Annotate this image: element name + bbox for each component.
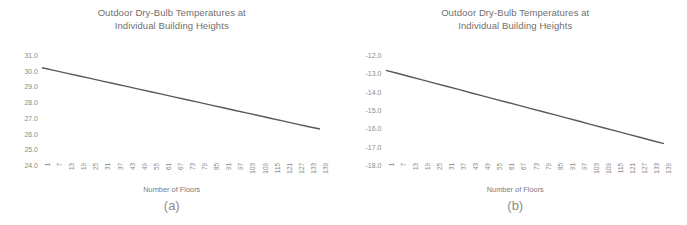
- x-tick-label: 109: [263, 163, 269, 174]
- x-tick-label: 19: [425, 163, 431, 170]
- x-axis-a: 1713192531374349556167737985919710310911…: [42, 163, 332, 185]
- panel-caption-b: (b): [344, 198, 687, 213]
- x-tick-label: 103: [250, 163, 256, 174]
- x-tick-label: 109: [606, 163, 612, 174]
- x-tick-label: 91: [570, 163, 576, 170]
- chart-title-a-line2: Individual Building Heights: [0, 19, 344, 32]
- y-tick-label: -16.0: [366, 125, 382, 132]
- x-tick-label: 103: [594, 163, 600, 174]
- y-tick-label: -17.0: [366, 144, 382, 151]
- x-tick-label: 121: [287, 163, 293, 174]
- y-tick-label: 26.0: [24, 131, 38, 138]
- x-tick-label: 67: [521, 163, 527, 170]
- x-tick-label: 25: [437, 163, 443, 170]
- y-tick-label: 28.0: [24, 99, 38, 106]
- x-tick-label: 127: [299, 163, 305, 174]
- x-tick-label: 7: [57, 163, 63, 167]
- y-tick-label: -14.0: [366, 89, 382, 96]
- chart-title-b-line2: Individual Building Heights: [344, 19, 687, 32]
- x-tick-label: 25: [93, 163, 99, 170]
- x-tick-label: 61: [509, 163, 515, 170]
- y-tick-label: -15.0: [366, 107, 382, 114]
- x-tick-label: 13: [413, 163, 419, 170]
- x-tick-label: 49: [485, 163, 491, 170]
- x-tick-label: 7: [401, 163, 407, 167]
- chart-panel-b: Outdoor Dry-Bulb Temperatures at Individ…: [344, 0, 687, 225]
- x-axis-label-b: Number of Floors: [344, 185, 687, 194]
- data-line-b: [386, 70, 664, 143]
- x-tick-label: 127: [642, 163, 648, 174]
- figure-container: Outdoor Dry-Bulb Temperatures at Individ…: [0, 0, 687, 225]
- x-tick-label: 133: [654, 163, 660, 174]
- x-tick-label: 55: [154, 163, 160, 170]
- chart-title-a-line1: Outdoor Dry-Bulb Temperatures at: [98, 7, 246, 18]
- x-tick-label: 115: [275, 163, 281, 173]
- chart-title-a: Outdoor Dry-Bulb Temperatures at Individ…: [0, 6, 344, 32]
- plot-area-b: [386, 52, 676, 162]
- x-tick-label: 37: [118, 163, 124, 170]
- chart-title-b: Outdoor Dry-Bulb Temperatures at Individ…: [344, 6, 687, 32]
- y-axis-b: -12.0-13.0-14.0-15.0-16.0-17.0-18.0: [348, 46, 382, 168]
- x-tick-label: 73: [190, 163, 196, 170]
- chart-title-b-line1: Outdoor Dry-Bulb Temperatures at: [441, 7, 589, 18]
- y-tick-label: 24.0: [24, 162, 38, 169]
- data-line-a: [42, 68, 320, 129]
- x-tick-label: 67: [178, 163, 184, 170]
- y-tick-label: 27.0: [24, 115, 38, 122]
- x-tick-label: 43: [473, 163, 479, 170]
- chart-panel-a: Outdoor Dry-Bulb Temperatures at Individ…: [0, 0, 344, 225]
- x-tick-label: 85: [214, 163, 220, 170]
- x-tick-label: 55: [497, 163, 503, 170]
- x-tick-label: 73: [534, 163, 540, 170]
- x-tick-label: 139: [323, 163, 329, 174]
- x-tick-label: 43: [130, 163, 136, 170]
- x-tick-label: 139: [666, 163, 672, 174]
- x-tick-label: 91: [226, 163, 232, 170]
- x-axis-label-a: Number of Floors: [0, 185, 344, 194]
- x-tick-label: 49: [142, 163, 148, 170]
- y-tick-label: -13.0: [366, 70, 382, 77]
- plot-area-a: [42, 52, 332, 162]
- y-axis-a: 31.030.029.028.027.026.025.024.0: [4, 46, 38, 168]
- x-tick-label: 1: [45, 163, 51, 167]
- x-axis-b: 1713192531374349556167737985919710310911…: [386, 163, 676, 185]
- x-tick-label: 79: [546, 163, 552, 170]
- panel-caption-a: (a): [0, 198, 344, 213]
- y-tick-label: 25.0: [24, 146, 38, 153]
- x-tick-label: 31: [449, 163, 455, 170]
- x-tick-label: 37: [461, 163, 467, 170]
- x-tick-label: 133: [311, 163, 317, 174]
- x-tick-label: 97: [582, 163, 588, 170]
- x-tick-label: 1: [389, 163, 395, 167]
- y-tick-label: 31.0: [24, 52, 38, 59]
- x-tick-label: 85: [558, 163, 564, 170]
- x-tick-label: 121: [630, 163, 636, 174]
- data-line-b-svg: [386, 52, 676, 162]
- y-tick-label: 30.0: [24, 68, 38, 75]
- x-tick-label: 79: [202, 163, 208, 170]
- x-tick-label: 19: [81, 163, 87, 170]
- x-tick-label: 13: [69, 163, 75, 170]
- y-tick-label: 29.0: [24, 83, 38, 90]
- x-tick-label: 31: [105, 163, 111, 170]
- x-tick-label: 97: [238, 163, 244, 170]
- x-tick-label: 61: [166, 163, 172, 170]
- x-tick-label: 115: [618, 163, 624, 173]
- data-line-a-svg: [42, 52, 332, 162]
- y-tick-label: -12.0: [366, 52, 382, 59]
- y-tick-label: -18.0: [366, 162, 382, 169]
